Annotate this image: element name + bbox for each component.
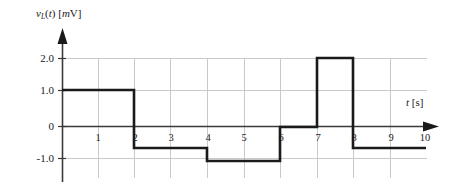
x-tick-label-10: 10: [414, 133, 436, 144]
x-axis-title: t [s]: [406, 97, 423, 108]
y-tick-label-0: 0: [26, 121, 54, 132]
x-tick-label-4: 4: [198, 133, 218, 144]
x-tick-label-9: 9: [381, 133, 401, 144]
y-tick-label-minus1: -1.0: [22, 153, 54, 164]
plot-canvas: [0, 0, 456, 188]
x-tick-label-5: 5: [234, 133, 254, 144]
y-tick-label-1: 1.0: [26, 85, 54, 96]
y-tick-label-2: 2.0: [26, 53, 54, 64]
x-tick-label-7: 7: [308, 133, 328, 144]
y-axis-title: vL(t) [mV]: [36, 8, 81, 21]
waveform-figure: vL(t) [mV] t [s] 2.0 1.0 0 -1.0 1 2 3 4 …: [0, 0, 456, 188]
x-tick-label-3: 3: [161, 133, 181, 144]
x-tick-label-1: 1: [88, 133, 108, 144]
x-tick-label-2: 2: [125, 133, 145, 144]
y-axis-arrow-icon: [58, 28, 68, 44]
x-axis-arrow-icon: [423, 122, 439, 132]
x-axis: [62, 122, 439, 132]
x-tick-label-6: 6: [271, 133, 291, 144]
x-tick-label-8: 8: [344, 133, 364, 144]
